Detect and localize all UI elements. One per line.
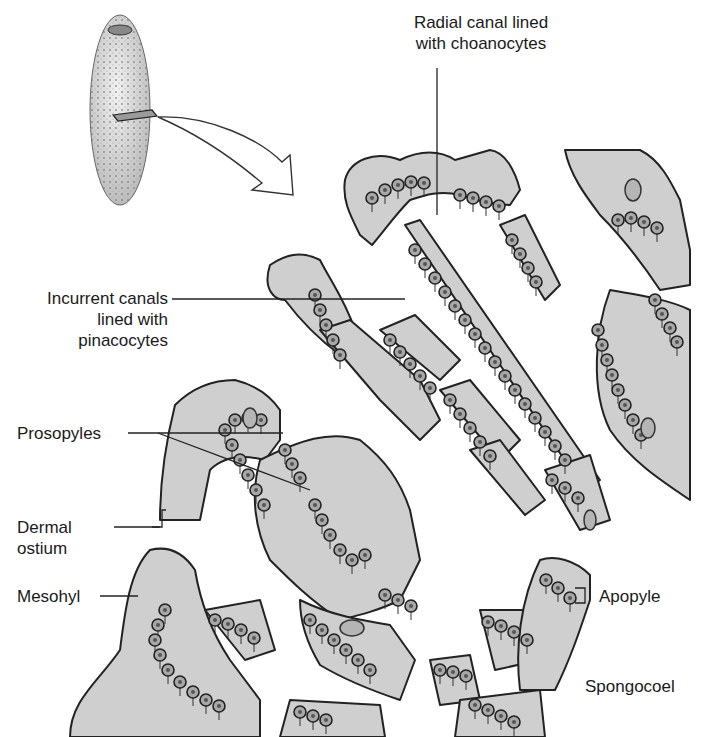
label-radial-canal-line2: with choanocytes <box>411 33 551 54</box>
label-dermal-ostium-line2: ostium <box>17 538 72 559</box>
label-incurrent-canals-line2: lined with <box>10 309 168 330</box>
label-incurrent-canals-line1: Incurrent canals <box>10 288 168 309</box>
curved-arrow-icon <box>158 117 293 195</box>
label-apopyle: Apopyle <box>599 586 660 607</box>
label-incurrent-canals: Incurrent canals lined with pinacocytes <box>10 288 168 351</box>
whole-sponge-illustration <box>90 15 157 205</box>
label-radial-canal-line1: Radial canal lined <box>411 12 551 33</box>
diagram-canvas <box>0 0 701 737</box>
sponge-wall-diagram: Radial canal lined with choanocytes Incu… <box>0 0 701 737</box>
label-spongocoel: Spongocoel <box>585 676 675 697</box>
label-dermal-ostium: Dermal ostium <box>17 517 72 559</box>
label-prosopyles: Prosopyles <box>17 423 101 444</box>
label-dermal-ostium-line1: Dermal <box>17 517 72 538</box>
label-mesohyl: Mesohyl <box>17 586 80 607</box>
label-radial-canal: Radial canal lined with choanocytes <box>411 12 551 54</box>
label-incurrent-canals-line3: pinacocytes <box>10 330 168 351</box>
